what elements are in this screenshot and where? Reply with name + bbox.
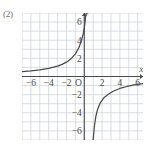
y-tick-label: 6 [77, 17, 82, 27]
axes [22, 13, 143, 140]
x-tick-label: −4 [44, 78, 54, 88]
x-tick-label: 2 [100, 78, 105, 88]
x-axis-arrow [140, 74, 143, 79]
y-tick-label: −4 [72, 108, 82, 118]
y-tick-label: −2 [72, 90, 82, 100]
plot-svg: −6−4−2246−6−4−2246O xy [22, 13, 143, 140]
axis-name-x: x [138, 64, 143, 74]
hyperbola-branch [93, 84, 143, 140]
x-tick-label: 6 [135, 78, 140, 88]
x-tick-label: −2 [61, 78, 71, 88]
y-tick-label: 4 [77, 36, 82, 46]
x-tick-label: 4 [117, 78, 122, 88]
y-tick-label: 2 [77, 54, 82, 64]
figure-item-label: (2) [3, 9, 13, 19]
y-tick-label: −6 [72, 126, 82, 136]
x-tick-label: −6 [26, 78, 36, 88]
axis-name-y: y [84, 13, 89, 16]
hyperbola-figure: (2) −6−4−2246−6−4−2246O xy [0, 0, 152, 152]
origin-label: O [75, 78, 82, 88]
plot-area: −6−4−2246−6−4−2246O xy [22, 13, 143, 140]
